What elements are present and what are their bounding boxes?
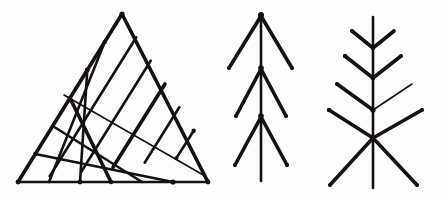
- chevron-arm-left: [329, 110, 373, 138]
- chevron-arm-right: [373, 84, 412, 110]
- chevron-arm-right: [373, 56, 401, 78]
- chevron-arm-left: [337, 84, 373, 110]
- branch-tip: [234, 114, 238, 118]
- cross-arm-tip: [415, 183, 419, 187]
- chevron-vertex: [370, 107, 375, 112]
- vertex-node-apex: [119, 11, 124, 16]
- cross-arm-tip: [328, 183, 332, 187]
- chevron-arm-right: [373, 110, 422, 138]
- branch-tip: [290, 66, 294, 70]
- branch-left: [229, 16, 261, 68]
- figure-sheet: [0, 0, 446, 197]
- chevron-level-4: [329, 110, 422, 138]
- chevron-vertex: [371, 46, 375, 50]
- chevron-tip: [393, 30, 396, 33]
- branch-tip: [285, 163, 289, 167]
- lattice-node: [109, 180, 113, 184]
- branch-tip: [227, 66, 231, 70]
- lattice-node: [78, 180, 83, 185]
- chevron-level-3: [337, 84, 412, 110]
- branch-right: [261, 117, 287, 165]
- chevron-tip: [335, 82, 339, 86]
- chevron-arm-right: [373, 31, 394, 48]
- vertex-node-base-left: [16, 180, 21, 185]
- cross-center-node: [370, 135, 375, 140]
- chevron-tip: [399, 54, 403, 58]
- lattice-node: [85, 68, 90, 73]
- branch-right: [261, 16, 292, 68]
- chevron-vertex: [371, 76, 376, 81]
- figure-canvas: [0, 0, 446, 197]
- tree-node: [258, 113, 264, 119]
- lattice-node: [170, 179, 175, 184]
- lattice-node: [33, 152, 37, 156]
- vertex-node-base-right: [206, 180, 211, 185]
- chevron-tip: [343, 54, 347, 58]
- cross-arm-lower-left: [330, 138, 373, 185]
- branch-tip: [284, 114, 288, 118]
- triangle-side-right: [122, 14, 208, 182]
- chevron-tip: [420, 108, 424, 112]
- chevron-tip: [327, 108, 331, 112]
- branch-left: [236, 69, 261, 116]
- lattice-nodes: [16, 11, 211, 184]
- chevron-arm-left: [345, 56, 373, 78]
- chevron-arm-left: [352, 31, 373, 48]
- branch-right: [261, 69, 286, 116]
- panel-fir-herringbone: [327, 17, 424, 188]
- branch-left: [235, 117, 261, 165]
- cross-arm-lower-right: [373, 138, 417, 185]
- lattice-node: [68, 96, 72, 100]
- lattice-node: [103, 40, 107, 44]
- branch-tip: [233, 163, 237, 167]
- lattice-line: [113, 84, 165, 167]
- tree-node: [258, 65, 264, 71]
- lattice-node: [192, 129, 196, 133]
- panel-branching-tree: [227, 12, 294, 181]
- panel-triangle-lattice: [16, 11, 211, 184]
- lattice-node: [174, 156, 178, 160]
- chevron-tip: [350, 29, 354, 33]
- tree-node-apex: [258, 12, 264, 18]
